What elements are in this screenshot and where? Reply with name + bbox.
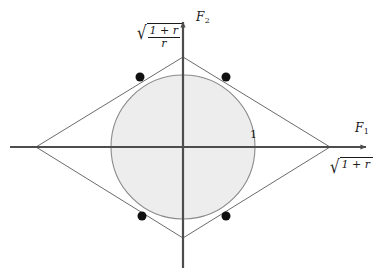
diagram-canvas <box>0 0 385 279</box>
intersection-point-upper-right <box>222 73 231 82</box>
y-axis-label: F2 <box>196 11 210 25</box>
radicand: 1 + r r <box>147 23 182 49</box>
radical-sign-icon: √ <box>330 158 340 177</box>
intersection-point-upper-left <box>136 73 145 82</box>
radicand-expression: 1 + r <box>341 159 371 170</box>
y-axis-label-subscript: 2 <box>204 16 210 25</box>
unit-radius-label: 1 <box>250 129 257 140</box>
x-axis-label: F1 <box>355 122 369 136</box>
intersection-point-lower-right <box>222 212 231 221</box>
fraction-numerator: 1 + r <box>148 25 180 37</box>
x-axis-label-subscript: 1 <box>363 127 369 136</box>
feasible-region-diagram: F2 F1 1 √ 1 + r √ 1 + r r <box>0 0 385 279</box>
sqrt-fraction-math: √ 1 + r r <box>137 23 182 49</box>
sqrt-one-plus-r-math: √ 1 + r <box>330 157 373 172</box>
sqrt-fraction-label: √ 1 + r r <box>137 22 182 49</box>
radical-sign-icon: √ <box>137 24 147 43</box>
fraction: 1 + r r <box>148 25 180 49</box>
intersection-point-lower-left <box>138 212 147 221</box>
fraction-denominator: r <box>148 37 180 50</box>
sqrt-one-plus-r-label: √ 1 + r <box>330 156 373 172</box>
radicand: 1 + r <box>340 157 373 170</box>
